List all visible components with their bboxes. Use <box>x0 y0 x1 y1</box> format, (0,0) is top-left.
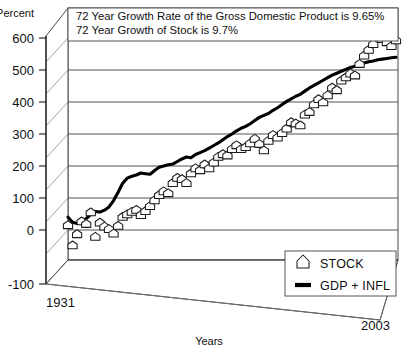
legend-label-stock: STOCK <box>320 257 364 271</box>
y-tick-label-600: 600 <box>12 31 34 46</box>
annotation-box: 72 Year Growth Rate of the Gross Domesti… <box>68 8 398 41</box>
x-tick-label-end: 2003 <box>361 318 390 333</box>
x-tick-label-start: 1931 <box>46 295 75 310</box>
x-axis-title: Years <box>195 335 223 347</box>
y-tick-label-500: 500 <box>12 63 34 78</box>
y-tick-label-0: 0 <box>27 223 34 238</box>
y-axis <box>39 36 46 284</box>
growth-comparison-chart: Percent 600 500 400 300 200 100 0 -100 1… <box>0 0 419 353</box>
chart-legend: STOCK GDP + INFL <box>285 251 396 296</box>
y-tick-label-100: 100 <box>12 191 34 206</box>
y-tick-label-neg100: -100 <box>8 277 34 292</box>
y-tick-label-200: 200 <box>12 159 34 174</box>
legend-label-gdp-infl: GDP + INFL <box>320 279 390 293</box>
annotation-line-1: 72 Year Growth Rate of the Gross Domesti… <box>76 10 384 22</box>
y-tick-label-400: 400 <box>12 95 34 110</box>
chart-container: Percent 600 500 400 300 200 100 0 -100 1… <box>0 0 419 353</box>
y-tick-label-300: 300 <box>12 127 34 142</box>
y-axis-unit-label: Percent <box>0 7 34 19</box>
annotation-line-2: 72 Year Growth of Stock is 9.7% <box>76 24 238 36</box>
